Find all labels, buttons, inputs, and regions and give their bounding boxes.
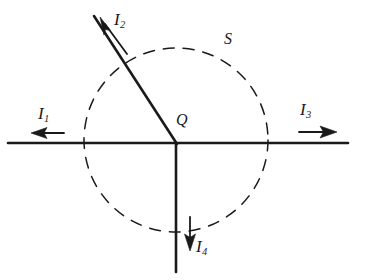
- label-current-i3: I3: [300, 101, 311, 118]
- label-current-i1: I1: [38, 105, 49, 122]
- physics-diagram: I1 I2 I3 I4 Q S: [0, 0, 367, 280]
- label-junction-q: Q: [176, 112, 188, 128]
- label-current-i2: I2: [114, 11, 125, 28]
- label-current-i4: I4: [196, 238, 207, 255]
- current-arrow-i4: [185, 217, 196, 251]
- current-arrow-i3: [299, 126, 337, 138]
- wire-diagonal: [94, 16, 177, 144]
- label-surface-s: S: [224, 31, 232, 47]
- diagram-canvas: [0, 0, 367, 280]
- current-arrow-i1: [31, 128, 64, 139]
